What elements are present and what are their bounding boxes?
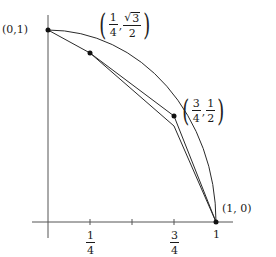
tick-label-quarter: 1 4 <box>86 230 95 256</box>
point-0-1 <box>46 28 51 33</box>
chord-p1-p2 <box>90 53 174 116</box>
point-three-quarter-half <box>172 114 177 119</box>
point-1-0 <box>214 220 219 225</box>
point-quarter-sqrt3-half <box>88 51 93 56</box>
paren-open: ( <box>99 10 106 40</box>
tick-label-three-quarter: 3 4 <box>170 230 179 256</box>
paren-close: ) <box>144 10 151 40</box>
polygon-chords <box>48 30 216 222</box>
label-point-three-quarter-half: ( 3 4 , 1 2 ) <box>180 96 227 126</box>
label-point-1-0: (1, 0) <box>222 203 252 214</box>
label-point-0-1: (0,1) <box>2 24 28 35</box>
unit-circle-arc <box>48 30 216 222</box>
tick-label-one: 1 <box>213 229 220 240</box>
fraction-x: 1 4 <box>109 12 118 38</box>
label-point-quarter-sqrt3-half: ( 1 4 , √3 2 ) <box>97 10 153 40</box>
fraction-y: √3 2 <box>123 12 141 39</box>
